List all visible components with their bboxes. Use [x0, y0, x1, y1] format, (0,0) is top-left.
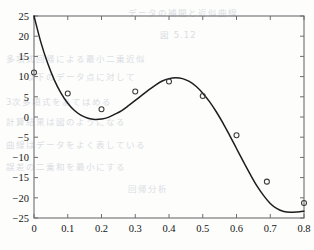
data-point-marker [65, 91, 70, 96]
y-tick-label: −20 [13, 193, 29, 204]
x-tick-label: 0.1 [61, 223, 74, 234]
x-tick-label: 0.7 [264, 223, 277, 234]
data-point-marker [99, 107, 104, 112]
y-tick-label: 25 [19, 11, 30, 22]
data-point-markers [32, 70, 307, 205]
y-tick-label: 20 [19, 31, 30, 42]
data-point-marker [264, 179, 269, 184]
x-tick-label: 0.8 [297, 223, 310, 234]
x-tick-label: 0.3 [129, 223, 142, 234]
x-tick-labels: 00.10.20.30.40.50.60.70.8 [31, 223, 310, 234]
chart-plot: −25−20−15−10−50510152025 00.10.20.30.40.… [0, 0, 314, 250]
y-tick-label: 15 [19, 51, 30, 62]
axes-frame [34, 16, 304, 218]
figure-canvas: データの補間と近似曲線 図 5.12 多項式回帰による最小二乗近似 以下のデータ… [0, 0, 314, 250]
x-tick-label: 0.5 [196, 223, 209, 234]
y-tick-label: −10 [13, 152, 29, 163]
x-tick-label: 0.4 [162, 223, 176, 234]
y-tick-label: −25 [13, 213, 29, 224]
data-point-marker [234, 133, 239, 138]
axis-ticks [34, 16, 304, 218]
fitted-curve [34, 16, 304, 212]
y-tick-label: 10 [19, 71, 30, 82]
x-tick-label: 0.2 [95, 223, 108, 234]
x-tick-label: 0 [31, 223, 36, 234]
y-tick-label: −5 [18, 132, 29, 143]
y-tick-label: 0 [24, 112, 29, 123]
y-tick-label: 5 [24, 92, 29, 103]
y-tick-label: −15 [13, 172, 29, 183]
y-tick-labels: −25−20−15−10−50510152025 [13, 11, 29, 224]
data-point-marker [167, 79, 172, 84]
data-point-marker [133, 89, 138, 94]
x-tick-label: 0.6 [230, 223, 243, 234]
